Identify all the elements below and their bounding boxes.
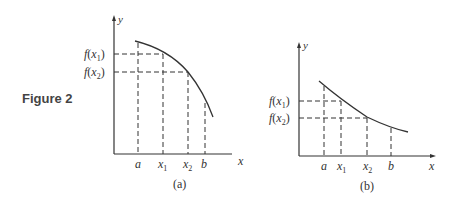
curve: [319, 81, 408, 132]
y-axis-label: y: [302, 39, 308, 51]
y-axis-label: y: [117, 13, 123, 25]
y-tick-fx2: f(x2): [84, 65, 105, 81]
x-tick-a: a: [321, 159, 327, 173]
y-axis-arrow-icon: [297, 42, 301, 48]
y-tick-fx1: f(x1): [269, 94, 290, 110]
figure-diagrams: y f(x1) f(x2) a x1 x2 b (a) y f(x1) f(x2…: [0, 0, 454, 200]
panel-caption: (a): [173, 177, 186, 191]
panel-caption: (b): [360, 179, 374, 193]
y-tick-fx1: f(x1): [84, 47, 105, 63]
x-tick-b: b: [201, 157, 207, 171]
x-tick-a: a: [135, 157, 141, 171]
x-axis-label: x: [237, 154, 244, 168]
y-axis-arrow-icon: [112, 15, 116, 21]
x-tick-x1: x1: [157, 157, 167, 173]
x-tick-x2: x2: [362, 159, 372, 175]
x-axis-label: x: [428, 159, 435, 173]
x-tick-b: b: [388, 159, 394, 173]
x-tick-x2: x2: [182, 157, 192, 173]
curve: [135, 41, 213, 117]
x-tick-x1: x1: [336, 159, 346, 175]
y-tick-fx2: f(x2): [269, 111, 290, 127]
panel-b: [297, 42, 436, 158]
panel-a: [112, 15, 232, 154]
x-axis-arrow-icon: [430, 154, 436, 158]
